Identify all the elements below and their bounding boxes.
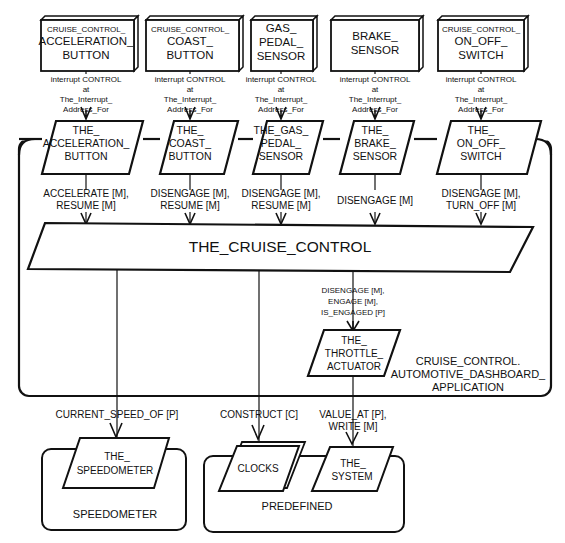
device-onoff[interactable]: CRUISE_CONTROL_ON_OFF_SWITCH bbox=[438, 16, 528, 71]
arrow-icon bbox=[110, 423, 122, 437]
svg-text:interrupt CONTROL: interrupt CONTROL bbox=[446, 75, 517, 84]
device-coast[interactable]: CRUISE_CONTROL_COAST_BUTTON bbox=[146, 16, 243, 71]
svg-text:BUTTON: BUTTON bbox=[62, 49, 109, 61]
svg-text:SYSTEM: SYSTEM bbox=[331, 471, 372, 482]
svg-text:ACCELERATION_: ACCELERATION_ bbox=[43, 137, 130, 149]
svg-text:THE_: THE_ bbox=[362, 124, 389, 136]
throttle-ops-label: DISENGAGE [M], ENGAGE [M], IS_ENGAGED [P… bbox=[321, 286, 385, 317]
svg-text:interrupt CONTROL: interrupt CONTROL bbox=[246, 75, 317, 84]
arrow-icon bbox=[346, 432, 358, 444]
application-label: CRUISE_CONTROL. AUTOMOTIVE_DASHBOARD_ AP… bbox=[391, 355, 546, 393]
svg-text:SENSOR: SENSOR bbox=[353, 150, 398, 162]
svg-text:THE_GAS_: THE_GAS_ bbox=[254, 124, 309, 136]
svg-text:DISENGAGE [M],: DISENGAGE [M], bbox=[321, 286, 384, 295]
svg-text:interrupt CONTROL: interrupt CONTROL bbox=[155, 75, 226, 84]
svg-text:THE_: THE_ bbox=[177, 124, 204, 136]
svg-text:SENSOR: SENSOR bbox=[351, 44, 400, 56]
svg-text:SWITCH: SWITCH bbox=[458, 49, 503, 61]
svg-text:at: at bbox=[187, 85, 194, 94]
predefined-package-label: PREDEFINED bbox=[262, 500, 333, 512]
arrow-icon bbox=[252, 425, 264, 439]
operations-label: DISENGAGE [M],RESUME [M] bbox=[242, 188, 321, 211]
svg-text:DISENGAGE [M],: DISENGAGE [M], bbox=[242, 188, 321, 199]
svg-text:TURN_OFF [M]: TURN_OFF [M] bbox=[446, 200, 516, 211]
svg-text:BUTTON: BUTTON bbox=[169, 150, 212, 162]
svg-text:interrupt CONTROL: interrupt CONTROL bbox=[340, 75, 411, 84]
svg-text:AUTOMOTIVE_DASHBOARD_: AUTOMOTIVE_DASHBOARD_ bbox=[391, 368, 546, 380]
svg-text:at: at bbox=[478, 85, 485, 94]
svg-text:at: at bbox=[372, 85, 379, 94]
object-gas[interactable]: THE_GAS_PEDAL_SENSOR bbox=[253, 121, 323, 174]
cruise-control-diagram: CRUISE_CONTROL_ACCELERATION_BUTTONinterr… bbox=[0, 0, 565, 543]
svg-text:SENSOR: SENSOR bbox=[257, 50, 306, 62]
svg-text:BRAKE_: BRAKE_ bbox=[354, 137, 396, 149]
device-brake[interactable]: BRAKE_SENSOR bbox=[331, 16, 423, 71]
svg-text:COAST_: COAST_ bbox=[169, 137, 211, 149]
speedometer-package-label: SPEEDOMETER bbox=[73, 508, 157, 520]
device-gas[interactable]: GAS_PEDAL_SENSOR bbox=[251, 16, 317, 71]
svg-text:CRUISE_CONTROL_: CRUISE_CONTROL_ bbox=[151, 25, 230, 34]
svg-text:PEDAL_: PEDAL_ bbox=[261, 137, 301, 149]
svg-text:The_Interrupt_: The_Interrupt_ bbox=[455, 95, 508, 104]
construct-label: CONSTRUCT [C] bbox=[220, 409, 298, 420]
object-brake[interactable]: THE_BRAKE_SENSOR bbox=[340, 121, 414, 174]
svg-text:The_Interrupt_: The_Interrupt_ bbox=[349, 95, 402, 104]
svg-text:DISENGAGE [M],: DISENGAGE [M], bbox=[151, 188, 230, 199]
svg-text:ON_OFF_: ON_OFF_ bbox=[454, 35, 508, 47]
svg-text:The_Interrupt_: The_Interrupt_ bbox=[164, 95, 217, 104]
svg-text:BUTTON: BUTTON bbox=[65, 150, 108, 162]
svg-text:SENSOR: SENSOR bbox=[259, 150, 304, 162]
current-speed-label: CURRENT_SPEED_OF [P] bbox=[56, 409, 179, 420]
svg-text:RESUME [M]: RESUME [M] bbox=[251, 200, 311, 211]
svg-text:BUTTON: BUTTON bbox=[166, 49, 213, 61]
svg-text:at: at bbox=[278, 85, 285, 94]
svg-text:THE_: THE_ bbox=[73, 124, 100, 136]
svg-text:GAS_: GAS_ bbox=[266, 22, 297, 34]
svg-text:DISENGAGE [M]: DISENGAGE [M] bbox=[337, 195, 413, 206]
device-acc[interactable]: CRUISE_CONTROL_ACCELERATION_BUTTON bbox=[38, 16, 138, 71]
svg-text:The_Interrupt_: The_Interrupt_ bbox=[255, 95, 308, 104]
interrupt-label: interrupt CONTROLatThe_Interrupt_Address… bbox=[340, 75, 411, 114]
svg-text:APPLICATION: APPLICATION bbox=[432, 381, 504, 393]
svg-text:SPEEDOMETER: SPEEDOMETER bbox=[77, 465, 154, 476]
svg-text:CRUISE_CONTROL_: CRUISE_CONTROL_ bbox=[47, 25, 126, 34]
svg-text:CRUISE_CONTROL_: CRUISE_CONTROL_ bbox=[442, 25, 521, 34]
svg-text:THROTTLE_: THROTTLE_ bbox=[325, 348, 384, 359]
svg-text:ACCELERATION_: ACCELERATION_ bbox=[38, 35, 134, 47]
svg-text:CLOCKS: CLOCKS bbox=[237, 463, 278, 474]
svg-text:at: at bbox=[83, 85, 90, 94]
svg-text:PEDAL_: PEDAL_ bbox=[259, 36, 304, 48]
interrupt-label: interrupt CONTROLatThe_Interrupt_Address… bbox=[446, 75, 517, 114]
svg-text:SWITCH: SWITCH bbox=[460, 150, 501, 162]
svg-text:THE_: THE_ bbox=[341, 335, 367, 346]
svg-text:DISENGAGE [M],: DISENGAGE [M], bbox=[442, 188, 521, 199]
svg-text:ON_OFF_: ON_OFF_ bbox=[457, 137, 506, 149]
object-acc[interactable]: THE_ACCELERATION_BUTTON bbox=[42, 121, 143, 174]
svg-text:ENGAGE [M],: ENGAGE [M], bbox=[328, 297, 378, 306]
cruise-control-label: THE_CRUISE_CONTROL bbox=[189, 238, 372, 255]
interrupt-label: interrupt CONTROLatThe_Interrupt_Address… bbox=[51, 75, 122, 114]
operations-label: ACCELERATE [M],RESUME [M] bbox=[43, 188, 128, 211]
speedometer-object[interactable] bbox=[63, 438, 169, 488]
value-at-label: VALUE_AT [P], bbox=[319, 409, 386, 420]
object-coast[interactable]: THE_COAST_BUTTON bbox=[160, 121, 238, 174]
svg-text:ACCELERATE [M],: ACCELERATE [M], bbox=[43, 188, 128, 199]
svg-text:ACTUATOR: ACTUATOR bbox=[327, 361, 381, 372]
svg-text:THE_: THE_ bbox=[104, 451, 130, 462]
operations-label: DISENGAGE [M],TURN_OFF [M] bbox=[442, 188, 521, 211]
svg-text:The_Interrupt_: The_Interrupt_ bbox=[60, 95, 113, 104]
interrupt-label: interrupt CONTROLatThe_Interrupt_Address… bbox=[246, 75, 317, 114]
operations-label: DISENGAGE [M] bbox=[337, 195, 413, 206]
svg-text:THE_: THE_ bbox=[340, 458, 366, 469]
svg-text:RESUME [M]: RESUME [M] bbox=[56, 200, 116, 211]
object-onoff[interactable]: THE_ON_OFF_SWITCH bbox=[437, 121, 541, 174]
svg-text:IS_ENGAGED [P]: IS_ENGAGED [P] bbox=[321, 308, 385, 317]
svg-text:interrupt CONTROL: interrupt CONTROL bbox=[51, 75, 122, 84]
svg-text:RESUME [M]: RESUME [M] bbox=[160, 200, 220, 211]
svg-text:BRAKE_: BRAKE_ bbox=[352, 30, 398, 42]
svg-text:THE_: THE_ bbox=[468, 124, 495, 136]
operations-label: DISENGAGE [M],RESUME [M] bbox=[151, 188, 230, 211]
write-label: WRITE [M] bbox=[329, 421, 378, 432]
svg-text:COAST_: COAST_ bbox=[167, 35, 214, 47]
interrupt-label: interrupt CONTROLatThe_Interrupt_Address… bbox=[155, 75, 226, 114]
